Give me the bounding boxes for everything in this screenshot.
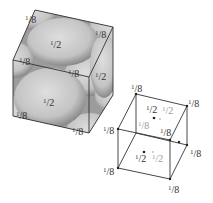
small-cube-label-front-bottom-right: 1/8 — [168, 183, 179, 195]
large-cube-label-front-face-center: 1/2 — [43, 96, 54, 108]
small-cube-label-top-face-center: 1/2 — [146, 103, 157, 115]
small-cube-label-back-bottom-left: 1/8 — [138, 119, 149, 131]
large-cube-label-top-face-center: 1/2 — [50, 38, 61, 50]
large-cube-label-bottom-front-right: 1/8 — [72, 125, 83, 137]
small-cube-label-front-face-center: 1/2 — [135, 152, 146, 164]
large-cube-label-right-face-center: 1/2 — [95, 70, 106, 82]
large-cube-label-top-front-right: 1/8 — [68, 67, 79, 79]
large-cube-label-top-back-left: 1/8 — [25, 13, 36, 25]
small-cube-label-front-top-right: 1/8 — [160, 126, 171, 138]
large-cube-label-bottom-front-left: 1/8 — [16, 109, 27, 121]
small-cube-label-back-top-right: 1/8 — [188, 97, 199, 109]
unit-cell-diagram: 1/81/81/21/81/81/21/21/81/81/81/81/21/21… — [0, 0, 213, 203]
small-cube-label-back-bottom-right: 1/8 — [190, 147, 201, 159]
large-cube-label-top-front-left: 1/8 — [19, 55, 30, 67]
small-cube-label-front-bottom-left: 1/8 — [103, 165, 114, 177]
large-cube-label-top-back-right: 1/8 — [95, 28, 106, 40]
small-cube-label-back-top-left: 1/8 — [131, 82, 142, 94]
small-cube-label-front-top-left: 1/8 — [103, 124, 114, 136]
small-cube-label-top-face-center-hidden: 1/2 — [162, 104, 173, 116]
small-cube-label-back-face-center: 1/2 — [152, 152, 163, 164]
